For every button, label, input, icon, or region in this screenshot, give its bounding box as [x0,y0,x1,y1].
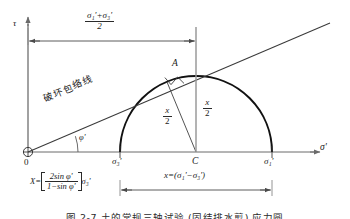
x-formula-tail: σ₃' [82,176,91,186]
height-denominator: 2 [203,108,212,119]
mean-stress-label: σ₁'+σ₃' 2 [85,11,114,31]
center-point-label: C [192,157,198,167]
friction-angle-label: φ' [79,133,86,142]
radius-label: x 2 [163,106,172,126]
radius-numerator: x [163,106,172,116]
sigma1-label: σ₁' [264,157,274,166]
x-formula-lhs: X= [30,176,41,186]
height-numerator: x [203,98,212,108]
x-formula-bracket: 2sin φ' 1−sin φ' [41,172,82,191]
deviator-stress-label: x=(σ₁'−σ₃') [164,171,205,180]
radius-denominator: 2 [163,116,172,127]
figure-caption: 图 2-7 土的常规三轴试验 (固结排水剪) 应力圆 [0,210,350,219]
height-label: x 2 [203,98,212,118]
x-formula-denominator: 1−sin φ' [45,181,78,191]
mean-stress-numerator: σ₁'+σ₃' [85,11,114,21]
sigma-axis-label: σ' [320,143,327,153]
mean-stress-denominator: 2 [85,21,114,32]
tangent-point-label: A [172,59,178,69]
bottom-dimension-line [120,180,272,196]
phi-angle-arc [75,136,78,152]
tau-axis-label: τ [13,19,16,28]
mohr-circle-figure: τ σ' 0 σ₁'+σ₃' 2 破坏包络线 φ' A C σ₃' σ₁' x … [0,0,350,219]
origin-label: 0 [24,158,29,167]
sigma3-label: σ₃' [112,157,122,166]
x-formula: X= 2sin φ' 1−sin φ' σ₃' [30,172,90,191]
x-formula-numerator: 2sin φ' [45,172,78,181]
